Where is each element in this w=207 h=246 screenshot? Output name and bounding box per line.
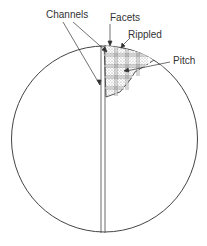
lap-circle <box>12 46 198 232</box>
lap-drawing <box>0 0 207 246</box>
lap-diagram: Channels Facets Rippled Pitch <box>0 0 207 246</box>
pitch-label: Pitch <box>173 56 195 66</box>
facets-label: Facets <box>110 13 140 23</box>
rippled-label: Rippled <box>128 30 162 40</box>
pitch-region <box>104 42 170 100</box>
channels-label: Channels <box>46 10 88 20</box>
